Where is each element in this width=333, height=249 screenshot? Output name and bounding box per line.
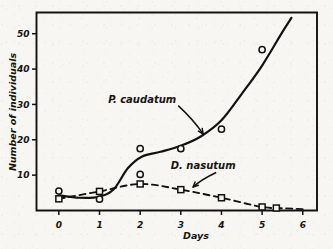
data-point-circle <box>178 146 184 152</box>
data-point-circle <box>218 126 224 132</box>
y-tick-label: 10 <box>17 170 30 180</box>
x-tick-label: 2 <box>137 220 143 230</box>
series-label-2: D. nasutum <box>171 160 236 171</box>
y-tick-label: 30 <box>17 100 30 110</box>
x-tick-label: 0 <box>56 220 62 230</box>
y-tick-label: 50 <box>17 29 30 39</box>
data-point-square <box>178 187 184 193</box>
x-axis-tick-labels: 0123456 <box>56 220 306 230</box>
data-point-square <box>137 181 143 187</box>
y-axis-title: Number of individuals <box>7 53 18 172</box>
scatter-chart: 1020304050 0123456 Number of individuals… <box>0 0 333 249</box>
data-point-circle <box>137 146 143 152</box>
data-point-circle <box>96 196 102 202</box>
series-annotations: P. caudatumD. nasutum <box>108 94 235 188</box>
data-point-square <box>259 204 265 210</box>
x-tick-label: 4 <box>217 220 224 230</box>
annotation-arrow-line <box>193 172 216 187</box>
y-tick-label: 20 <box>17 135 30 145</box>
data-point-square <box>56 196 62 202</box>
data-point-square <box>97 188 103 194</box>
figure-container: 1020304050 0123456 Number of individuals… <box>0 0 333 249</box>
data-point-square <box>273 205 279 211</box>
series-label-1: P. caudatum <box>108 94 176 105</box>
data-point-square <box>218 195 224 201</box>
x-tick-label: 5 <box>259 220 265 230</box>
data-point-circle <box>259 47 265 53</box>
series-curves <box>59 18 303 209</box>
data-point-circle <box>137 171 143 177</box>
data-point-circle <box>56 188 62 194</box>
x-tick-label: 3 <box>178 220 184 230</box>
axis-frame <box>37 13 318 211</box>
plot-frame <box>37 13 318 211</box>
x-axis-title: Days <box>183 230 209 241</box>
annotation-arrow-line <box>178 106 203 134</box>
x-tick-label: 6 <box>300 220 306 230</box>
x-tick-label: 1 <box>96 220 102 230</box>
